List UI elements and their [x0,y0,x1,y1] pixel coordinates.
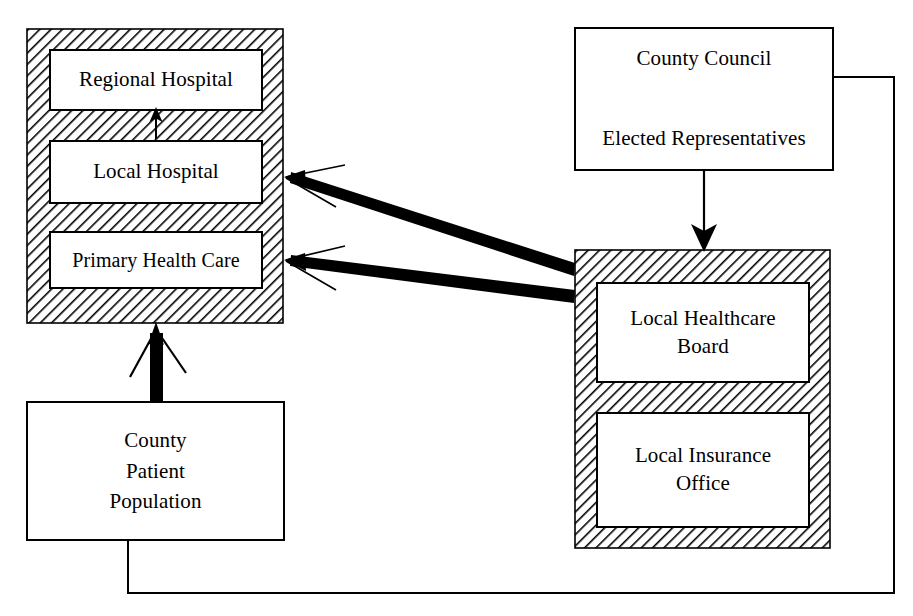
provider-group[interactable] [27,29,283,323]
purchaser-group[interactable] [575,250,830,548]
edge-population-to-providers [130,322,186,401]
local-hospital-box[interactable] [50,141,262,203]
edge-board-to-local-hospital [284,165,575,276]
county-patient-population-box[interactable] [27,402,284,540]
diagram-svg [0,0,913,616]
county-council-box[interactable] [575,28,833,170]
regional-hospital-box[interactable] [50,50,262,110]
edge-council-to-purchaser [691,171,717,252]
local-insurance-office-box[interactable] [597,413,809,527]
local-healthcare-board-box[interactable] [597,283,809,382]
primary-health-care-box[interactable] [50,232,262,288]
diagram-canvas: Regional Hospital Local Hospital Primary… [0,0,913,616]
